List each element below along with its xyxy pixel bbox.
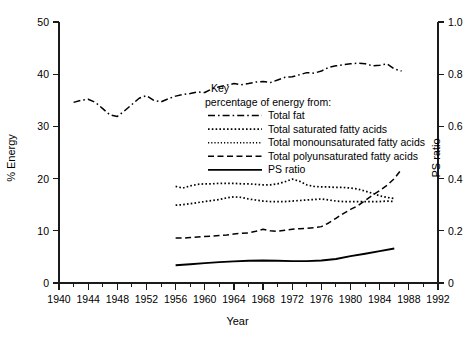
x-tick-label: 1952 <box>135 293 159 305</box>
y-tick-label-right: 0.8 <box>448 68 463 80</box>
x-tick-label: 1976 <box>310 293 334 305</box>
x-tick-label: 1960 <box>193 293 217 305</box>
x-tick-label: 1964 <box>222 293 246 305</box>
y-tick-label-left: 0 <box>43 277 49 289</box>
y-axis-right-title: PS ratio <box>430 138 442 177</box>
legend-label-4: PS ratio <box>268 163 306 175</box>
y-tick-label-left: 50 <box>37 16 49 28</box>
y-tick-label-left: 40 <box>37 68 49 80</box>
chart-container: 0102030405000.20.40.60.81.01940194419481… <box>0 0 475 337</box>
x-tick-label: 1980 <box>339 293 363 305</box>
legend-label-2: Total monounsaturated fatty acids <box>268 136 425 148</box>
x-tick-label: 1972 <box>281 293 305 305</box>
series-line-1 <box>176 179 395 198</box>
y-tick-label-right: 0.6 <box>448 120 463 132</box>
x-tick-label: 1948 <box>106 293 130 305</box>
y-tick-label-right: 1.0 <box>448 16 463 28</box>
legend-label-1: Total saturated fatty acids <box>268 123 387 135</box>
x-tick-label: 1944 <box>76 293 100 305</box>
series-line-0 <box>74 63 402 116</box>
x-tick-label: 1968 <box>251 293 275 305</box>
y-tick-label-right: 0.4 <box>448 173 463 185</box>
y-tick-label-right: 0 <box>448 277 454 289</box>
x-tick-label: 1956 <box>164 293 188 305</box>
x-tick-label: 1992 <box>426 293 450 305</box>
series-line-4 <box>176 249 395 266</box>
y-axis-left-title: % Energy <box>5 134 17 182</box>
x-tick-label: 1988 <box>397 293 421 305</box>
legend-subtitle: percentage of energy from: <box>205 96 331 108</box>
y-tick-label-left: 10 <box>37 225 49 237</box>
legend-title: Key <box>211 82 230 94</box>
legend-label-0: Total fat <box>268 109 305 121</box>
x-tick-label: 1940 <box>47 293 71 305</box>
x-tick-label: 1984 <box>368 293 392 305</box>
x-axis-title: Year <box>0 315 475 327</box>
data-series-group <box>74 63 402 265</box>
chart-legend: Keypercentage of energy from:Total fatTo… <box>205 82 425 175</box>
y-tick-label-left: 20 <box>37 173 49 185</box>
y-tick-label-left: 30 <box>37 120 49 132</box>
legend-label-3: Total polyunsaturated fatty acids <box>268 150 418 162</box>
y-tick-label-right: 0.2 <box>448 225 463 237</box>
chart-plot-area: 0102030405000.20.40.60.81.01940194419481… <box>0 0 475 337</box>
